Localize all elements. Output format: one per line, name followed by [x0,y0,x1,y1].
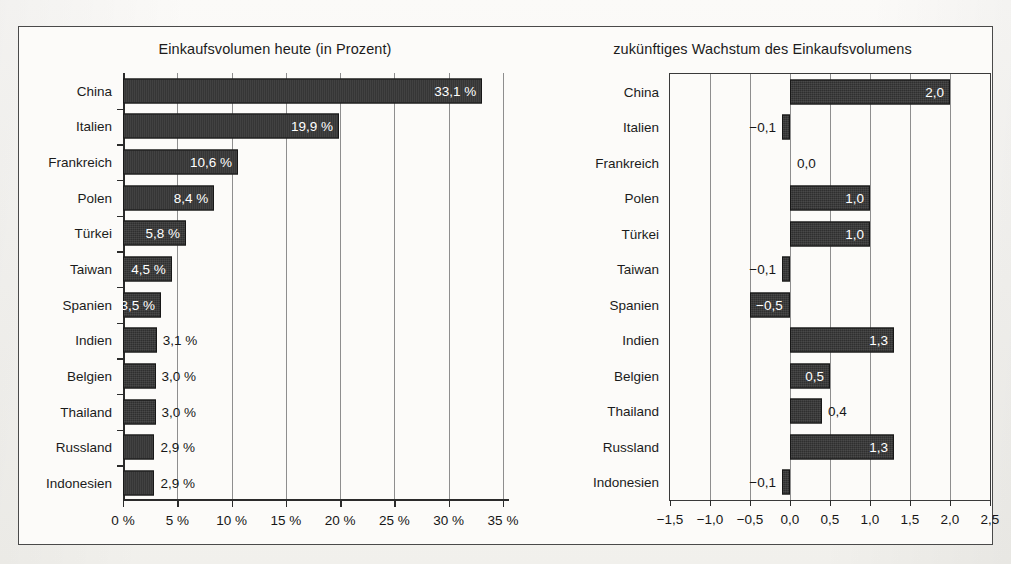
category-label: Polen [624,191,659,206]
chart-row: Spanien3,5 % [123,287,503,323]
category-label: China [77,83,112,98]
chart-row: Türkei1,0 [670,216,990,252]
x-axis-tick-label: 1,0 [861,512,880,527]
x-axis-tick-label: −1,0 [697,512,724,527]
y-axis-tick [117,358,123,359]
bar-value-label: −0,1 [749,475,776,490]
y-axis-tick [117,251,123,252]
chart-row: Polen1,0 [670,181,990,217]
chart-row: Polen8,4 % [123,180,503,216]
category-label: Indien [622,333,659,348]
x-axis-tick-label: 2,0 [941,512,960,527]
bar-value-label: 1,3 [869,439,888,454]
chart-row: Frankreich0,0 [670,145,990,181]
chart-row: Indonesien−0,1 [670,465,990,501]
bar [123,364,156,389]
bar-value-label: 1,0 [845,226,864,241]
chart-frame: Einkaufsvolumen heute (in Prozent) China… [18,26,993,545]
bar [782,257,790,282]
chart-row: Belgien3,0 % [123,358,503,394]
category-label: Indien [75,333,112,348]
chart-row: Taiwan4,5 % [123,251,503,287]
chart-panel-purchasing-volume: Einkaufsvolumen heute (in Prozent) China… [19,27,531,546]
chart-row: Taiwan−0,1 [670,252,990,288]
chart-row: Indonesien2,9 % [123,465,503,501]
chart-row: Belgien0,5 [670,358,990,394]
y-axis-tick [117,216,123,217]
category-label: Spanien [62,297,112,312]
category-label: Russland [56,440,112,455]
category-label: Belgien [614,368,659,383]
bar-value-label: 2,0 [925,84,944,99]
bar-value-label: 10,6 % [190,155,232,170]
category-label: Thailand [60,404,112,419]
x-axis-tick [990,500,991,506]
category-label: Frankreich [48,155,112,170]
x-axis-labels: −1,5−1,0−0,50,00,51,01,52,02,5 [670,500,990,530]
bar [123,78,482,103]
x-axis-tick-label: 0,0 [781,512,800,527]
chart-row: Thailand3,0 % [123,394,503,430]
category-label: Indonesien [46,476,112,491]
bar [790,399,822,424]
y-axis-tick [117,180,123,181]
chart-panel-future-growth: zukünftiges Wachstum des Einkaufsvolumen… [531,27,994,546]
bar-value-label: 1,3 [869,333,888,348]
bar-value-label: 3,5 % [120,297,155,312]
y-axis-tick [117,394,123,395]
y-axis-tick [117,323,123,324]
y-axis-tick [117,465,123,466]
bar-value-label: 0,0 [797,155,816,170]
chart-row: Italien19,9 % [123,109,503,145]
bar [123,399,156,424]
x-axis-tick-label: −1,5 [657,512,684,527]
category-label: Russland [603,439,659,454]
x-axis-tick-label: 30 % [433,513,464,528]
category-label: Belgien [67,369,112,384]
x-axis-tick-label: 0,5 [821,512,840,527]
bar [782,470,790,495]
category-label: China [624,84,659,99]
bar-value-label: −0,5 [756,297,783,312]
chart-row: Indien3,1 % [123,323,503,359]
x-axis-tick-label: 2,5 [981,512,1000,527]
bar-value-label: 2,9 % [160,476,195,491]
x-axis-tick-label: 25 % [379,513,410,528]
chart-row: China2,0 [670,74,990,110]
category-label: Türkei [74,226,112,241]
category-label: Taiwan [617,262,659,277]
bar-value-label: 5,8 % [145,226,180,241]
bar-value-label: −0,1 [749,262,776,277]
chart-title-left: Einkaufsvolumen heute (in Prozent) [19,41,531,57]
chart-row: Spanien−0,5 [670,287,990,323]
bar-value-label: 3,1 % [163,333,198,348]
plot-area-right: China2,0Italien−0,1Frankreich0,0Polen1,0… [669,73,991,501]
bar [123,471,154,496]
x-axis-tick-label: 0 % [111,513,134,528]
bar-value-label: 3,0 % [162,369,197,384]
bar-value-label: 0,4 [828,404,847,419]
x-axis-tick-label: 10 % [216,513,247,528]
chart-row: Russland2,9 % [123,430,503,466]
bar-value-label: 0,5 [805,368,824,383]
x-axis-tick-label: 15 % [270,513,301,528]
x-axis-tick [503,501,504,507]
bar-value-label: 3,0 % [162,404,197,419]
category-label: Italien [623,120,659,135]
category-label: Taiwan [70,262,112,277]
x-axis-tick-label: 1,5 [901,512,920,527]
x-axis-tick-label: 35 % [488,513,519,528]
y-axis-tick [117,287,123,288]
category-label: Spanien [609,297,659,312]
bar-value-label: 8,4 % [174,190,209,205]
gridline [503,73,504,501]
chart-title-right: zukünftiges Wachstum des Einkaufsvolumen… [531,41,994,57]
chart-row: Frankreich10,6 % [123,144,503,180]
bar-value-label: 2,9 % [160,440,195,455]
bar [123,328,157,353]
x-axis-tick-label: −0,5 [737,512,764,527]
chart-row: Thailand0,4 [670,394,990,430]
x-axis-labels: 0 %5 %10 %15 %20 %25 %30 %35 % [123,501,503,531]
category-label: Thailand [607,404,659,419]
x-axis-tick-label: 5 % [166,513,189,528]
